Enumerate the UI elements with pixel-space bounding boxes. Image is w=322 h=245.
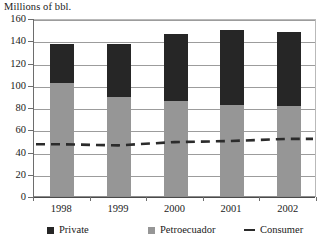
bar-segment-petroecuador-1998 bbox=[50, 83, 74, 196]
y-axis-tick-80 bbox=[28, 108, 33, 109]
bar-segment-petroecuador-2001 bbox=[220, 105, 244, 196]
legend-item-private[interactable]: Private bbox=[47, 224, 89, 236]
y-axis-tick-label-40: 40 bbox=[0, 148, 26, 159]
x-axis-tick-label-2000: 2000 bbox=[145, 203, 205, 215]
legend-label: Consumer bbox=[260, 224, 303, 236]
y-axis-tick-60 bbox=[28, 130, 33, 131]
x-axis-tick-3 bbox=[203, 197, 204, 201]
legend-square-icon-private bbox=[47, 227, 54, 234]
chart-axis-title: Millions of bbl. bbox=[4, 1, 71, 13]
x-axis-tick-label-2002: 2002 bbox=[258, 203, 318, 215]
bar-group-2000 bbox=[164, 18, 188, 196]
bar-group-1998 bbox=[50, 18, 74, 196]
x-axis-tick-5 bbox=[316, 197, 317, 201]
y-axis-tick-100 bbox=[28, 86, 33, 87]
x-axis-tick-4 bbox=[259, 197, 260, 201]
legend-dashed-line-icon bbox=[244, 229, 255, 231]
stacked-bar-chart: Millions of bbl. 020406080100120140160 1… bbox=[0, 0, 322, 245]
bar-segment-petroecuador-1999 bbox=[107, 97, 131, 196]
bar-segment-private-2002 bbox=[277, 32, 301, 105]
y-axis-tick-120 bbox=[28, 64, 33, 65]
bar-segment-petroecuador-2002 bbox=[277, 106, 301, 196]
x-axis-tick-label-2001: 2001 bbox=[201, 203, 261, 215]
bar-group-2001 bbox=[220, 18, 244, 196]
bar-segment-private-2000 bbox=[164, 34, 188, 102]
legend-label: Private bbox=[59, 224, 89, 236]
plot-area bbox=[33, 19, 316, 197]
x-axis-tick-label-1998: 1998 bbox=[31, 203, 91, 215]
x-axis-tick-0 bbox=[33, 197, 34, 201]
bar-group-2002 bbox=[277, 18, 301, 196]
y-axis-tick-label-120: 120 bbox=[0, 59, 26, 70]
y-axis-tick-140 bbox=[28, 41, 33, 42]
bar-segment-private-1999 bbox=[107, 44, 131, 97]
bar-segment-private-1998 bbox=[50, 44, 74, 83]
bar-group-1999 bbox=[107, 18, 131, 196]
gridline-0 bbox=[34, 197, 315, 198]
y-axis-tick-label-100: 100 bbox=[0, 81, 26, 92]
x-axis-tick-1 bbox=[90, 197, 91, 201]
y-axis-tick-160 bbox=[28, 19, 33, 20]
legend-item-petroecuador[interactable]: Petroecuador bbox=[148, 224, 215, 236]
x-axis-tick-2 bbox=[146, 197, 147, 201]
y-axis-tick-label-140: 140 bbox=[0, 36, 26, 47]
bar-segment-private-2001 bbox=[220, 30, 244, 105]
y-axis-tick-label-20: 20 bbox=[0, 170, 26, 181]
y-axis-tick-40 bbox=[28, 153, 33, 154]
y-axis-spine bbox=[33, 19, 34, 197]
x-axis-tick-label-1999: 1999 bbox=[88, 203, 148, 215]
y-axis-tick-label-60: 60 bbox=[0, 125, 26, 136]
legend-label: Petroecuador bbox=[160, 224, 215, 236]
chart-legend: PrivatePetroecuadorConsumer bbox=[0, 224, 322, 240]
y-axis-tick-20 bbox=[28, 175, 33, 176]
legend-square-icon-petroecuador bbox=[148, 227, 155, 234]
legend-item-consumer[interactable]: Consumer bbox=[244, 224, 303, 236]
bar-segment-petroecuador-2000 bbox=[164, 101, 188, 196]
y-axis-tick-label-80: 80 bbox=[0, 103, 26, 114]
y-axis-tick-label-160: 160 bbox=[0, 14, 26, 25]
y-axis-tick-label-0: 0 bbox=[0, 192, 26, 203]
